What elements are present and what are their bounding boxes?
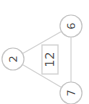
center-sum-box: 12	[42, 45, 58, 74]
node-bottom-right: 7	[60, 82, 82, 104]
node-top-right-value: 6	[65, 23, 78, 30]
node-left: 2	[2, 48, 24, 70]
node-top-right: 6	[60, 15, 82, 37]
center-sum-value: 12	[43, 52, 57, 67]
node-left-value: 2	[7, 56, 20, 63]
triangle-diagram: 12 6 2 7	[0, 0, 89, 104]
node-bottom-right-value: 7	[65, 90, 78, 97]
